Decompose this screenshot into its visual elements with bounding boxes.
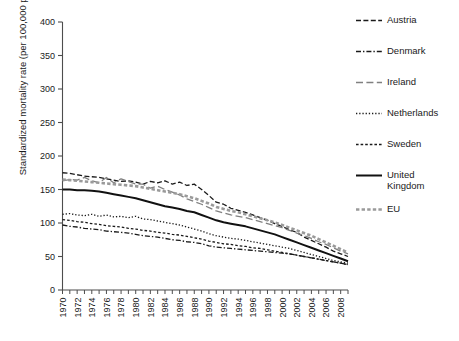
x-tick-label: 1978 bbox=[116, 298, 126, 318]
x-tick-label: 1994 bbox=[234, 298, 244, 318]
dashed-line-key bbox=[356, 15, 382, 26]
x-tick-label: 1982 bbox=[146, 298, 156, 318]
y-tick-label: 200 bbox=[40, 151, 55, 161]
x-tick-label: 2002 bbox=[292, 298, 302, 318]
x-tick-label: 1974 bbox=[87, 298, 97, 318]
x-tick-label: 1992 bbox=[219, 298, 229, 318]
x-tick-label: 2006 bbox=[321, 298, 331, 318]
dashdot-line-key bbox=[356, 46, 382, 57]
x-tick-label: 1998 bbox=[263, 298, 273, 318]
legend-item-ireland[interactable]: Ireland bbox=[356, 76, 459, 107]
y-tick-label: 0 bbox=[50, 285, 55, 295]
solid-line-key bbox=[356, 170, 382, 181]
legend-item-label: Ireland bbox=[387, 76, 416, 87]
legend-item-label: EU bbox=[387, 203, 400, 214]
longdash-line-key bbox=[356, 77, 382, 88]
legend-item-united-kingdom[interactable]: United Kingdom bbox=[356, 169, 459, 203]
x-tick-label: 1986 bbox=[175, 298, 185, 318]
x-tick-label: 1984 bbox=[160, 298, 170, 318]
shortdash-line-key bbox=[356, 139, 382, 150]
y-tick-label: 250 bbox=[40, 118, 55, 128]
legend-item-label: Denmark bbox=[387, 45, 426, 56]
legend-item-eu[interactable]: EU bbox=[356, 203, 459, 234]
dotted-line-key bbox=[356, 108, 382, 119]
legend-item-netherlands[interactable]: Netherlands bbox=[356, 107, 459, 138]
y-tick-label: 350 bbox=[40, 51, 55, 61]
x-tick-label: 2008 bbox=[336, 298, 346, 318]
x-tick-label: 1996 bbox=[248, 298, 258, 318]
x-tick-label: 1988 bbox=[190, 298, 200, 318]
x-tick-label: 1976 bbox=[102, 298, 112, 318]
y-tick-label: 100 bbox=[40, 218, 55, 228]
legend-item-label: Sweden bbox=[387, 138, 421, 149]
legend-item-sweden[interactable]: Sweden bbox=[356, 138, 459, 169]
y-tick-label: 50 bbox=[45, 252, 55, 262]
x-tick-label: 1980 bbox=[131, 298, 141, 318]
chart-legend: AustriaDenmarkIrelandNetherlandsSwedenUn… bbox=[356, 14, 459, 234]
x-tick-label: 1970 bbox=[58, 298, 68, 318]
legend-item-denmark[interactable]: Denmark bbox=[356, 45, 459, 76]
eu-dash-line-key bbox=[356, 204, 382, 215]
chart-figure: Standardized mortality rate (per 100,000… bbox=[0, 0, 459, 341]
legend-item-label: United Kingdom bbox=[387, 169, 425, 191]
legend-item-label: Netherlands bbox=[387, 107, 438, 118]
series-line-sweden bbox=[63, 220, 349, 265]
x-tick-label: 1972 bbox=[73, 298, 83, 318]
legend-item-label: Austria bbox=[387, 14, 417, 25]
y-tick-label: 150 bbox=[40, 185, 55, 195]
y-tick-label: 400 bbox=[40, 17, 55, 27]
y-tick-label: 300 bbox=[40, 84, 55, 94]
series-line-austria bbox=[63, 173, 349, 257]
legend-item-austria[interactable]: Austria bbox=[356, 14, 459, 45]
x-tick-label: 2004 bbox=[307, 298, 317, 318]
series-line-netherlands bbox=[63, 214, 349, 264]
x-tick-label: 2000 bbox=[278, 298, 288, 318]
x-tick-label: 1990 bbox=[204, 298, 214, 318]
